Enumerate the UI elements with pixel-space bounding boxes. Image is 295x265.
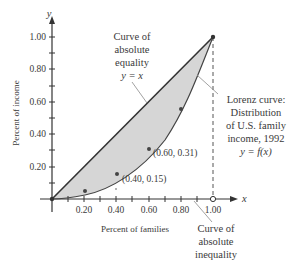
svg-text:absolute: absolute	[199, 236, 234, 247]
y-tick-label: 0.60	[29, 97, 46, 107]
y-tick-label: 0.20	[29, 162, 46, 172]
y-tick-label: 0.40	[29, 129, 46, 139]
x-tick-label: 0.60	[141, 205, 158, 215]
svg-text:inequality: inequality	[195, 249, 238, 260]
data-point	[115, 172, 119, 176]
svg-text:of U.S. family: of U.S. family	[226, 120, 287, 131]
equality-label: Curve of absolute equality y = x	[113, 31, 151, 81]
svg-text:y = f(x): y = f(x)	[239, 146, 272, 158]
data-point	[83, 189, 87, 193]
y-axis-symbol: y	[46, 8, 52, 19]
point-label-060: (0.60, 0.31)	[153, 148, 197, 159]
svg-text:y = x: y = x	[120, 70, 143, 81]
svg-text:income, 1992: income, 1992	[227, 133, 284, 144]
data-point	[211, 35, 215, 39]
svg-text:Distribution: Distribution	[231, 107, 283, 118]
data-point	[50, 197, 54, 201]
x-tick-label: 0.80	[173, 205, 190, 215]
data-point	[179, 107, 183, 111]
x-tick-label: 0.20	[76, 205, 93, 215]
open-point-icon	[210, 196, 215, 201]
svg-text:absolute: absolute	[115, 44, 150, 55]
inequality-label: Curve of absolute inequality	[195, 223, 238, 260]
x-axis-title: Percent of families	[101, 224, 169, 234]
svg-text:Curve of: Curve of	[197, 223, 235, 234]
svg-text:Lorenz curve:: Lorenz curve:	[227, 94, 286, 105]
equality-leader	[132, 82, 147, 103]
x-axis-arrow-icon	[230, 196, 238, 202]
svg-text:Curve of: Curve of	[113, 31, 151, 42]
lorenz-label: Lorenz curve: Distribution of U.S. famil…	[226, 94, 287, 158]
y-tick-label: 1.00	[29, 32, 46, 42]
x-tick-label: 1.00	[205, 205, 222, 215]
lorenz-curve-figure: 0.20 0.40 0.60 0.80 1.00 0.20 0.40 0.60 …	[0, 0, 295, 265]
y-tick-label: 0.80	[29, 64, 46, 74]
y-axis-title: Percent of income	[11, 80, 21, 145]
chart-svg: 0.20 0.40 0.60 0.80 1.00 0.20 0.40 0.60 …	[0, 0, 295, 265]
data-point	[147, 147, 151, 151]
x-axis-symbol: x	[241, 193, 247, 204]
svg-text:equality: equality	[115, 57, 150, 68]
lorenz-leader	[197, 75, 218, 94]
x-tick-label: 0.40	[108, 205, 125, 215]
stray-dot	[115, 188, 117, 190]
point-label-040: (0.40, 0.15)	[122, 174, 166, 185]
